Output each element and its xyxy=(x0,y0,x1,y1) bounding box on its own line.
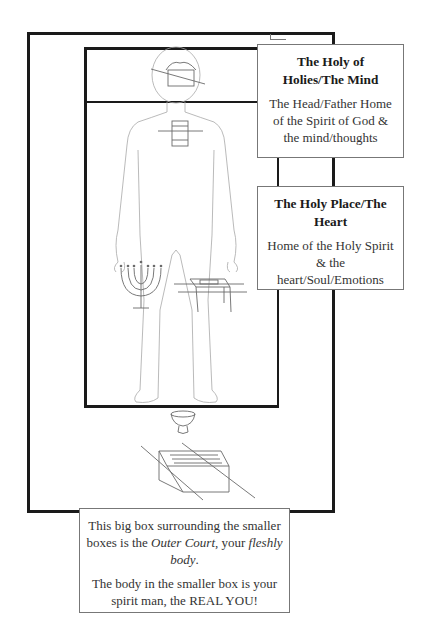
outer-court-term: Outer Court xyxy=(151,535,215,550)
laver-icon xyxy=(171,411,195,434)
holy-place-title: The Holy Place/The Heart xyxy=(266,195,395,231)
holy-of-holies-description: The Head/Father Home of the Spirit of Go… xyxy=(266,95,395,146)
altar-of-incense-icon xyxy=(158,121,203,146)
outer-court-description: This big box surrounding the smaller box… xyxy=(84,517,285,568)
ark-of-covenant-icon xyxy=(151,62,205,86)
table-of-showbread-icon xyxy=(174,279,247,312)
holy-of-holies-title: The Holy of Holies/The Mind xyxy=(266,53,395,89)
holy-place-label: The Holy Place/The Heart Home of the Hol… xyxy=(257,186,404,290)
brazen-altar-icon xyxy=(141,443,255,500)
outer-court-text-end: . xyxy=(196,552,199,567)
outer-court-text-mid: , your xyxy=(215,535,249,550)
spirit-man-description: The body in the smaller box is your spir… xyxy=(84,575,285,609)
holy-of-holies-label: The Holy of Holies/The Mind The Head/Fat… xyxy=(257,44,404,158)
outer-court-label: This big box surrounding the smaller box… xyxy=(79,508,290,613)
human-figure-outline xyxy=(114,47,237,403)
menorah-icon xyxy=(120,261,163,308)
holy-place-description: Home of the Holy Spirit & the heart/Soul… xyxy=(266,237,395,288)
